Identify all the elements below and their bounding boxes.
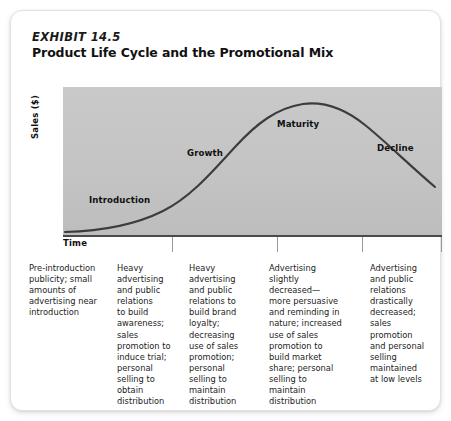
column-decline: Advertising and public relations drastic… [370, 263, 442, 385]
promotional-mix-columns: Pre-introduction publicity; small amount… [29, 263, 439, 403]
stage-label-growth: Growth [187, 148, 223, 158]
stage-divider-tick-1 [172, 237, 173, 252]
stage-divider-tick-2 [277, 237, 278, 252]
stage-label-decline: Decline [377, 143, 414, 153]
chart-plot-area: Introduction Growth Maturity Decline [63, 87, 442, 237]
page-title: Product Life Cycle and the Promotional M… [32, 45, 432, 61]
exhibit-header: EXHIBIT 14.5 Product Life Cycle and the … [32, 30, 432, 61]
column-introduction: Heavy advertising and public relations t… [117, 263, 189, 407]
stage-label-maturity: Maturity [277, 119, 319, 129]
exhibit-card: EXHIBIT 14.5 Product Life Cycle and the … [10, 10, 441, 411]
sales-curve [63, 87, 442, 235]
stage-label-introduction: Introduction [89, 195, 150, 205]
column-pre-introduction: Pre-introduction publicity; small amount… [29, 263, 113, 318]
column-growth: Heavy advertising and public relations t… [189, 263, 261, 407]
stage-divider-tick-4 [441, 237, 442, 252]
product-life-cycle-chart: Sales ($) Introduction Growth Maturity D… [32, 87, 432, 253]
x-axis-label: Time [63, 238, 87, 248]
stage-divider-tick-3 [362, 237, 363, 252]
y-axis-label: Sales ($) [30, 125, 40, 139]
exhibit-number: EXHIBIT 14.5 [32, 30, 432, 44]
column-maturity: Advertising slightly decreased— more per… [269, 263, 359, 407]
